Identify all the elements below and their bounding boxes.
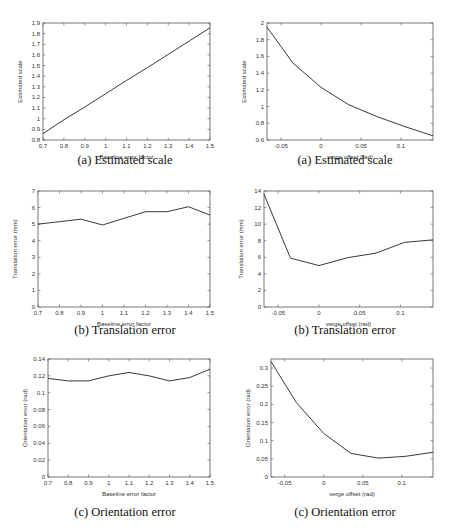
x-tick-label: -0.05 xyxy=(278,480,292,486)
y-tick-label: 0.05 xyxy=(256,456,268,462)
x-tick-label: 0.1 xyxy=(398,480,407,486)
x-tick-label: 0.05 xyxy=(357,480,369,486)
y-tick-label: 0.3 xyxy=(260,365,269,371)
y-tick-label: 0.25 xyxy=(256,383,268,389)
y-tick-label: 0.15 xyxy=(256,420,268,426)
y-tick-label: 0.1 xyxy=(260,438,269,444)
x-tick-label: 0 xyxy=(322,480,326,486)
y-axis-label: Orientation error (rad) xyxy=(245,389,251,447)
x-axis-label: verge offset (rad) xyxy=(329,491,375,497)
data-line xyxy=(271,362,433,459)
y-tick-label: 0 xyxy=(265,474,269,480)
y-tick-label: 0.2 xyxy=(260,401,269,407)
plot-svg: -0.0500.050.100.050.10.150.20.250.3verge… xyxy=(0,0,455,531)
caption-right-c: (c) Orientation error xyxy=(240,505,450,520)
plot-frame xyxy=(271,359,433,477)
